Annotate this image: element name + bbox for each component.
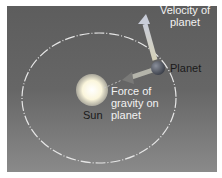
planet-label: Planet bbox=[170, 62, 201, 74]
velocity-label-line-1: Velocity of bbox=[152, 4, 218, 16]
velocity-label: Velocity of planet bbox=[152, 4, 218, 28]
force-label-line-1: Force of bbox=[111, 85, 159, 97]
force-label-line-3: planet bbox=[111, 109, 159, 121]
force-label-line-2: gravity on bbox=[111, 97, 159, 109]
force-label: Force of gravity on planet bbox=[111, 85, 159, 121]
planet-icon bbox=[151, 61, 165, 75]
velocity-label-line-2: planet bbox=[152, 16, 218, 28]
sun-icon bbox=[76, 74, 108, 106]
sun-label: Sun bbox=[83, 109, 103, 121]
